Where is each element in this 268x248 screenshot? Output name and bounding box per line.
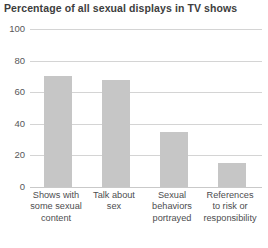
x-axis-label-line: content (27, 213, 85, 224)
x-axis-label-line: Shows with (27, 190, 85, 201)
x-axis-label: Referencesto risk orresponsibility (201, 190, 259, 224)
y-axis-tick-label: 100 (9, 24, 25, 34)
x-axis-label-line: References (201, 190, 259, 201)
bar (218, 163, 246, 187)
x-axis-label-line: Talk about (85, 190, 143, 201)
x-axis-label-line: Sexual (143, 190, 201, 201)
y-axis-tick-label: 40 (14, 119, 25, 129)
x-axis-label: Sexualbehaviorsportrayed (143, 190, 201, 224)
bar (160, 132, 188, 187)
chart-title: Percentage of all sexual displays in TV … (4, 2, 237, 14)
y-axis-tick-label: 0 (20, 182, 25, 192)
y-gridline (30, 61, 262, 62)
x-axis-labels: Shows withsome sexualcontentTalk aboutse… (30, 190, 268, 246)
y-axis-tick-label: 80 (14, 56, 25, 66)
x-axis-label-line: portrayed (143, 213, 201, 224)
x-axis-line (30, 187, 262, 188)
y-gridline (30, 29, 262, 30)
x-axis-label-line: to risk or (201, 201, 259, 212)
bar-chart-figure: Percentage of all sexual displays in TV … (0, 0, 268, 248)
x-axis-label-line: behaviors (143, 201, 201, 212)
x-axis-label: Talk aboutsex (85, 190, 143, 213)
y-axis-tick-label: 60 (14, 87, 25, 97)
x-axis-label-line: some sexual (27, 201, 85, 212)
x-axis-label-line: sex (85, 201, 143, 212)
x-axis-label-line: responsibility (201, 213, 259, 224)
bar (102, 80, 130, 187)
plot-area: 020406080100 (30, 29, 262, 187)
bar (44, 76, 72, 187)
x-axis-label: Shows withsome sexualcontent (27, 190, 85, 224)
y-axis-tick-label: 20 (14, 151, 25, 161)
